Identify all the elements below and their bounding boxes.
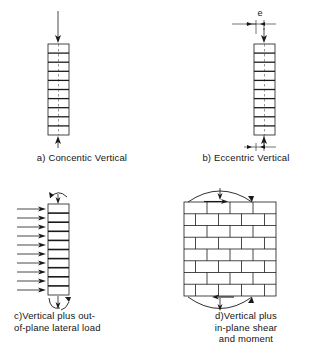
panel-c-caption: c)Vertical plus out- of-plane lateral lo… — [0, 310, 164, 333]
axial-load-arrow-top — [261, 28, 267, 43]
shear-arrow-top — [204, 199, 228, 204]
axial-load-arrow-bottom — [56, 296, 61, 309]
shear-arrow-bottom — [212, 295, 234, 300]
axial-load-arrow-bottom — [55, 136, 61, 148]
panel-d-caption: d)Vertical plus in-plane shear and momen… — [164, 310, 328, 345]
axial-load-arrow-top — [55, 11, 61, 43]
eccentricity-dimension-bottom — [244, 135, 276, 151]
panel-a-concentric-vertical: a) Concentic Vertical — [0, 0, 164, 180]
loading-conditions-figure: a) Concentic Vertical — [0, 0, 328, 360]
eccentricity-symbol: e — [257, 8, 262, 18]
panel-a-caption: a) Concentic Vertical — [0, 152, 164, 164]
panel-c-drawing — [0, 180, 164, 360]
panel-b-caption: b) Eccentric Vertical — [164, 152, 328, 164]
axial-load-arrow-top — [56, 194, 61, 204]
column-bed-joints — [48, 213, 69, 286]
eccentricity-dimension-top — [232, 20, 276, 34]
panel-b-eccentric-vertical: e b) Eccentric Vertical — [164, 0, 328, 180]
panel-c-vertical-plus-out-of-plane: c)Vertical plus out- of-plane lateral lo… — [0, 180, 164, 360]
lateral-load-arrows — [17, 207, 46, 293]
panel-d-vertical-plus-in-plane: d)Vertical plus in-plane shear and momen… — [164, 180, 328, 360]
moment-arrow-bottom — [49, 297, 71, 310]
axial-load-arrow-top — [218, 188, 223, 200]
